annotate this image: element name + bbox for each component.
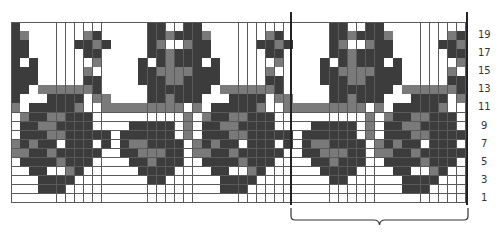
row-label-7: 7 <box>481 139 499 149</box>
row-label-15: 15 <box>478 66 496 76</box>
repeat-start-line <box>290 12 292 205</box>
row-label-17: 17 <box>478 48 496 58</box>
row-label-9: 9 <box>481 121 499 131</box>
row-label-1: 1 <box>481 193 499 203</box>
pattern-repeat-bracket <box>290 208 469 228</box>
row-label-13: 13 <box>478 84 496 94</box>
row-label-11: 11 <box>478 102 496 112</box>
knitting-chart-grid <box>11 22 466 203</box>
row-label-5: 5 <box>481 157 499 167</box>
row-label-19: 19 <box>478 30 496 40</box>
chart-right-edge-line <box>466 12 468 205</box>
row-label-3: 3 <box>481 175 499 185</box>
